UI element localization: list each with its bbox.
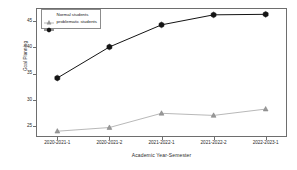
data-point-marker (263, 11, 268, 17)
legend-label-normal: Normal students (57, 13, 89, 17)
data-point-marker (211, 12, 216, 18)
chart-figure: Goal Planning Academic Year-Semester 253… (0, 0, 297, 170)
data-point-marker (107, 44, 112, 50)
chart-legend: Normal students problematic students (41, 9, 101, 29)
legend-item-normal: Normal students (44, 12, 97, 19)
data-point-marker (55, 75, 60, 81)
data-point-marker (159, 111, 164, 115)
triangle-icon (44, 12, 54, 18)
legend-item-problematic: problematic students (44, 19, 97, 26)
data-point-marker (263, 106, 268, 110)
legend-label-problematic: problematic students (57, 20, 98, 24)
data-point-marker (159, 22, 164, 28)
hexagon-icon (44, 19, 54, 25)
